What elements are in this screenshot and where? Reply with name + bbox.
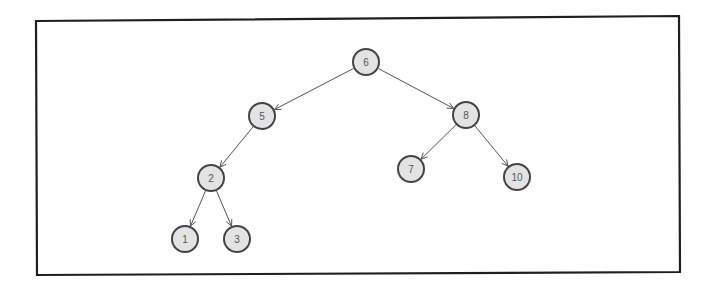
node-label: 6 <box>363 57 369 68</box>
tree-node-10: 10 <box>504 164 530 190</box>
tree-node-1: 1 <box>172 226 198 252</box>
tree-node-8: 8 <box>453 102 479 128</box>
tree-node-5: 5 <box>249 103 275 129</box>
node-label: 5 <box>259 111 265 122</box>
tree-diagram: 658271013 <box>0 0 714 291</box>
node-label: 1 <box>182 234 188 245</box>
tree-node-7: 7 <box>398 156 424 182</box>
node-label: 7 <box>408 164 414 175</box>
tree-node-2: 2 <box>198 165 224 191</box>
tree-node-6: 6 <box>353 49 379 75</box>
node-label: 8 <box>463 110 469 121</box>
node-label: 10 <box>511 172 523 183</box>
node-label: 2 <box>208 173 214 184</box>
node-label: 3 <box>234 234 240 245</box>
tree-node-3: 3 <box>224 226 250 252</box>
